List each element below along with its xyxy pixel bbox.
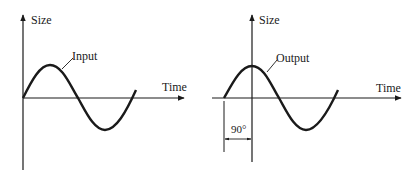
input-graph bbox=[23, 15, 184, 170]
right-y-axis-label: Size bbox=[259, 14, 280, 26]
output-curve-label: Output bbox=[276, 52, 309, 64]
right-x-axis-label: Time bbox=[376, 82, 401, 94]
left-x-axis-label: Time bbox=[162, 81, 187, 93]
input-curve-label: Input bbox=[72, 50, 97, 62]
left-y-axis-label: Size bbox=[31, 14, 52, 26]
output-graph bbox=[212, 15, 401, 162]
phase-shift-label: 90° bbox=[231, 124, 246, 135]
phase-shift-diagram bbox=[0, 0, 416, 175]
